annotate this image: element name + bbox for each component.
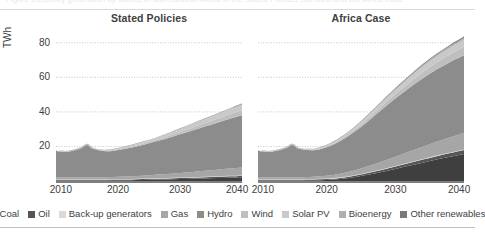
legend-swatch-icon bbox=[161, 211, 168, 218]
legend-label: Other renewables bbox=[410, 209, 485, 219]
clipped-figure-caption: Figure Electricity generation by source … bbox=[6, 0, 471, 6]
legend-label: Wind bbox=[251, 209, 273, 219]
legend-label: Back-up generators bbox=[69, 209, 152, 219]
legend-item-hydro[interactable]: Hydro bbox=[197, 209, 232, 219]
legend-swatch-icon bbox=[59, 211, 66, 218]
y-tick-label-20: 20 bbox=[39, 141, 50, 151]
legend-label: Coal bbox=[0, 209, 19, 219]
x-tick-label-2030: 2030 bbox=[384, 184, 406, 195]
x-tick-label-2020: 2020 bbox=[107, 184, 129, 195]
legend-swatch-icon bbox=[339, 211, 346, 218]
legend-label: Solar PV bbox=[292, 209, 330, 219]
chart-legend: CoalOilBack-up generatorsGasHydroWindSol… bbox=[0, 206, 475, 222]
legend-swatch-icon bbox=[197, 211, 204, 218]
x-tick-label-2010: 2010 bbox=[252, 184, 274, 195]
bottom-divider bbox=[0, 227, 475, 228]
y-tick-label-80: 80 bbox=[39, 38, 50, 48]
x-tick-label-2010: 2010 bbox=[50, 184, 72, 195]
legend-label: Gas bbox=[171, 209, 188, 219]
legend-swatch-icon bbox=[28, 211, 35, 218]
x-tick-label-2020: 2020 bbox=[316, 184, 338, 195]
area-chart-africa-case bbox=[258, 29, 464, 181]
panel-title-africa-case: Africa Case bbox=[258, 12, 464, 24]
x-axis-ticks-stated-policies: 2010202020302040 bbox=[56, 184, 242, 200]
x-tick-label-2040: 2040 bbox=[226, 184, 248, 195]
legend-item-gas[interactable]: Gas bbox=[161, 209, 188, 219]
plot-area-africa-case bbox=[258, 29, 464, 181]
panel-title-stated-policies: Stated Policies bbox=[56, 12, 242, 24]
panel-africa-case: Africa Case 2010202020302040 bbox=[258, 12, 464, 198]
legend-swatch-icon bbox=[241, 211, 248, 218]
area-chart-stated-policies bbox=[56, 29, 242, 181]
y-axis: TWh 20406080 bbox=[0, 12, 56, 198]
x-tick-label-2030: 2030 bbox=[169, 184, 191, 195]
y-axis-label: TWh bbox=[2, 27, 13, 48]
legend-item-coal[interactable]: Coal bbox=[0, 209, 19, 219]
panel-stated-policies: Stated Policies 2010202020302040 bbox=[56, 12, 242, 198]
legend-label: Hydro bbox=[207, 209, 232, 219]
legend-label: Oil bbox=[38, 209, 50, 219]
legend-swatch-icon bbox=[400, 211, 407, 218]
plot-area-stated-policies bbox=[56, 29, 242, 181]
legend-item-other-renewables[interactable]: Other renewables bbox=[400, 209, 485, 219]
x-axis-ticks-africa-case: 2010202020302040 bbox=[258, 184, 464, 200]
x-tick-label-2040: 2040 bbox=[448, 184, 470, 195]
legend-label: Bioenergy bbox=[349, 209, 392, 219]
legend-item-back-up-generators[interactable]: Back-up generators bbox=[59, 209, 152, 219]
legend-item-wind[interactable]: Wind bbox=[241, 209, 273, 219]
y-tick-label-60: 60 bbox=[39, 72, 50, 82]
top-divider bbox=[0, 9, 475, 10]
legend-item-bioenergy[interactable]: Bioenergy bbox=[339, 209, 392, 219]
y-tick-label-40: 40 bbox=[39, 107, 50, 117]
legend-item-oil[interactable]: Oil bbox=[28, 209, 50, 219]
x-axis-line-africa-case bbox=[258, 181, 464, 183]
legend-swatch-icon bbox=[282, 211, 289, 218]
legend-item-solar-pv[interactable]: Solar PV bbox=[282, 209, 330, 219]
x-axis-line-stated-policies bbox=[56, 181, 242, 183]
